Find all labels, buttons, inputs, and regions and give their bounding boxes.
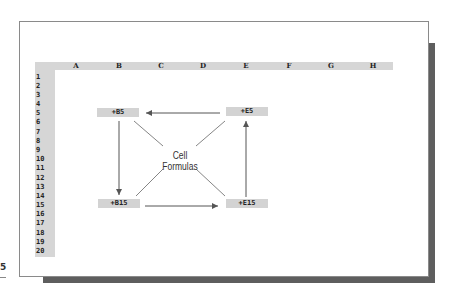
connector-b5 (134, 121, 163, 146)
connector-e15 (196, 169, 225, 196)
cell-e15: +E15 (226, 199, 268, 208)
connector-b15 (136, 169, 163, 196)
cell-e5: +E5 (226, 107, 268, 116)
formula-reference-arrows (0, 0, 450, 292)
margin-glyph: 5 (0, 262, 6, 272)
cell-b15: +B15 (98, 199, 140, 208)
margin-rule (0, 277, 6, 278)
cell-b5: +B5 (97, 108, 139, 117)
connector-e5 (196, 121, 225, 146)
cell-formulas-label: Cell Formulas (155, 150, 206, 172)
